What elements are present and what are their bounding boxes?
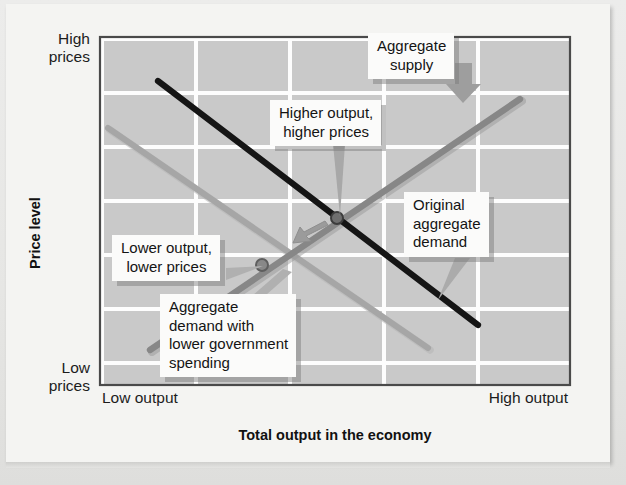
callout-higher-output: Higher output, higher prices	[270, 100, 381, 146]
axis-label-high-prices: High prices	[18, 30, 90, 66]
callout-aggregate-supply: Aggregate supply	[368, 33, 454, 79]
supply-demand-chart	[0, 0, 626, 485]
equilibrium-point-lower	[256, 259, 268, 271]
callout-original-demand: Original aggregate demand	[404, 192, 489, 257]
equilibrium-point-higher	[331, 212, 343, 224]
y-axis-title: Price level	[27, 178, 43, 288]
figure-root: High prices Low prices Low output High o…	[0, 0, 626, 485]
axis-label-high-output: High output	[462, 389, 568, 407]
callout-demand-lower-spending: Aggregate demand with lower government s…	[160, 294, 296, 377]
callout-lower-output: Lower output, lower prices	[112, 235, 220, 281]
axis-label-low-output: Low output	[102, 389, 178, 407]
x-axis-title: Total output in the economy	[100, 427, 570, 443]
axis-label-low-prices: Low prices	[18, 359, 90, 395]
